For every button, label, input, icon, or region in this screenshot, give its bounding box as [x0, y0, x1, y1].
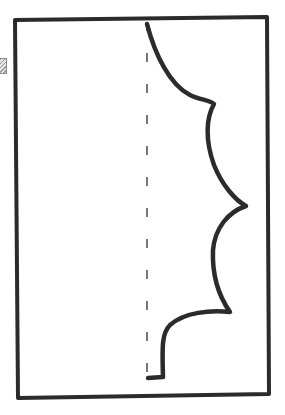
paper-cutting-diagram — [0, 0, 285, 415]
paper-sheet-outline — [15, 17, 269, 398]
cut-outline — [147, 24, 246, 378]
